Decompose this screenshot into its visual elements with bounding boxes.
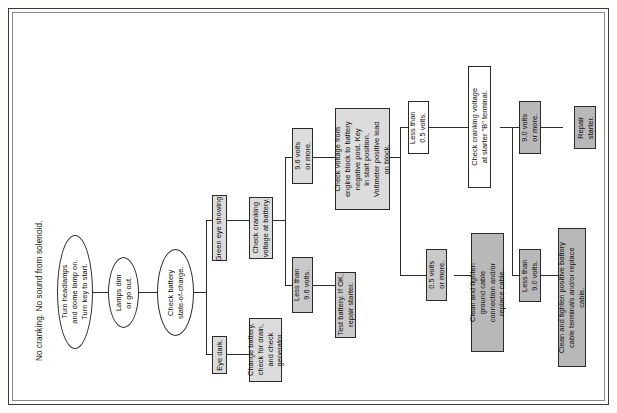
node-label: Lamps dim or go out.: [114, 274, 134, 311]
node-90-volts-or-more[interactable]: 9.0 volts or more.: [519, 101, 541, 154]
node-check-cranking-voltage-starter-b[interactable]: Check cranking voltage at starter "B" te…: [468, 66, 491, 188]
node-label: Check voltage from engine block to batte…: [333, 121, 392, 197]
edge-n6-stem: [273, 220, 285, 221]
edge-n1-n2: [93, 292, 108, 293]
node-check-battery-state-of-charge[interactable]: Check battery state-of-charge.: [157, 249, 194, 336]
node-05-volts-or-more[interactable]: 0.5 volts or more.: [426, 249, 447, 301]
node-label: Less than 0.5 volts.: [409, 111, 429, 144]
node-label: Repair starter.: [575, 116, 595, 139]
node-test-battery-repair-starter[interactable]: Test battery. If OK, repair starter.: [335, 272, 356, 338]
node-label: Check cranking voltage at battery.: [251, 198, 271, 257]
node-clean-tighten-ground-cable[interactable]: Clean and tighten ground cable connectio…: [471, 233, 504, 352]
edge-n14-split-vert: [512, 127, 513, 275]
node-label: 9.6 volts or more.: [293, 142, 313, 170]
edge-n3-split-vert: [206, 220, 207, 354]
edge-n14-n16: [512, 127, 519, 128]
node-label: Eye dark.: [215, 339, 225, 371]
edge-n6-n8: [285, 157, 292, 158]
edge-n6-n9: [285, 285, 292, 286]
node-label: 0.5 volts or more.: [427, 261, 447, 289]
node-check-voltage-engine-block[interactable]: Check voltage from engine block to batte…: [335, 108, 390, 210]
edge-n14-stem: [500, 127, 512, 128]
node-label: Clean and tighten positive battery cable…: [557, 242, 586, 353]
edge-n8-n11: [313, 157, 335, 158]
node-label: Less than 9.0 volts.: [520, 259, 540, 292]
edge-n2-n3: [139, 292, 157, 293]
figure-page: No cranking. No sound from solenoid.: [0, 0, 617, 413]
edge-n11-n12: [400, 127, 408, 128]
node-label: Green eye showing.: [215, 195, 225, 262]
edge-n9-n10: [313, 285, 335, 286]
figure-frame: No cranking. No sound from solenoid.: [8, 8, 609, 405]
node-label: Test battery. If OK, repair starter.: [336, 274, 356, 336]
node-eye-dark[interactable]: Eye dark.: [212, 336, 227, 374]
node-label: Less than 9.6 volts.: [293, 269, 313, 302]
edge-n16-n17: [541, 127, 563, 128]
edge-n6-split-vert: [285, 157, 286, 285]
edge-n3-stem: [194, 292, 206, 293]
node-turn-headlamps[interactable]: Turn headlamps and dome lamp on. Turn ke…: [57, 235, 93, 349]
node-check-cranking-voltage-at-battery[interactable]: Check cranking voltage at battery.: [249, 197, 273, 259]
node-lamps-dim[interactable]: Lamps dim or go out.: [108, 257, 139, 328]
node-less-than-96-volts[interactable]: Less than 9.6 volts.: [292, 257, 313, 313]
edge-n11-split-vert: [400, 127, 401, 275]
node-label: 9.0 volts or more.: [520, 114, 540, 142]
edge-n18-n19: [541, 275, 558, 276]
node-less-than-05-volts[interactable]: Less than 0.5 volts.: [408, 101, 429, 154]
node-label: Turn headlamps and dome lamp on. Turn ke…: [60, 260, 89, 324]
figure-frame-inner-rule: [12, 12, 605, 401]
node-label: Check cranking voltage at starter "B" te…: [470, 88, 490, 166]
node-label: Clean and tighten ground cable connectio…: [468, 263, 507, 323]
node-change-battery-check-drain[interactable]: Change battery, check for drain, and che…: [249, 318, 282, 382]
node-clean-tighten-positive-battery[interactable]: Clean and tighten positive battery cable…: [558, 228, 586, 367]
edge-n4-n6: [227, 220, 249, 221]
node-repair-starter[interactable]: Repair starter.: [574, 106, 596, 149]
node-less-than-90-volts[interactable]: Less than 9.0 volts.: [519, 249, 541, 302]
node-green-eye-showing[interactable]: Green eye showing.: [212, 195, 227, 261]
node-96-volts-or-more[interactable]: 9.6 volts or more.: [292, 128, 313, 184]
node-label: Change battery, check for drain, and che…: [246, 324, 285, 377]
figure-caption: No cranking. No sound from solenoid.: [35, 220, 44, 361]
edge-n14-n18: [512, 275, 519, 276]
edge-n11-n13: [400, 275, 426, 276]
edge-n12-n14: [429, 127, 468, 128]
node-label: Check battery state-of-charge.: [166, 266, 186, 319]
